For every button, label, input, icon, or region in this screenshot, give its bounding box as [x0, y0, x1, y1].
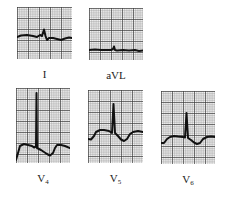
ecg-grid-strip: [88, 90, 143, 163]
ecg-lead-label-v5: V5: [88, 172, 143, 188]
ecg-lead-label-i: I: [17, 68, 72, 84]
lead-name: aVL: [106, 69, 126, 81]
ecg-lead-label-v4: V4: [16, 172, 70, 188]
ecg-grid-strip: [16, 88, 70, 163]
lead-subscript: 5: [118, 178, 122, 186]
ecg-lead-label-avl: aVL: [89, 69, 143, 85]
ecg-lead-panel-v6: [161, 91, 215, 164]
lead-name: V: [110, 172, 118, 184]
lead-name: I: [43, 68, 47, 80]
ecg-lead-panel-v4: [16, 88, 70, 163]
ecg-lead-panel-v5: [88, 90, 143, 163]
ecg-grid-strip: [17, 7, 72, 59]
ecg-grid-strip: [161, 91, 215, 164]
ecg-lead-panel-avl: [89, 8, 143, 60]
lead-subscript: 6: [190, 179, 194, 187]
ecg-lead-panel-i: [17, 7, 72, 59]
lead-subscript: 4: [45, 178, 49, 186]
ecg-grid-strip: [89, 8, 143, 60]
ecg-lead-label-v6: V6: [161, 173, 215, 189]
